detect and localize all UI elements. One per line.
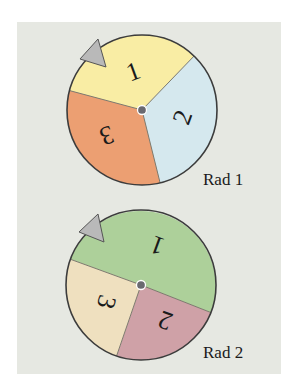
spinner-1: 1 2 3 [67, 35, 217, 185]
spinner-1-center-pin [138, 106, 147, 115]
spinner-2-label: Rad 2 [203, 343, 243, 363]
spinner-2-center-pin [137, 281, 146, 290]
spinners-figure: 1 2 3 1 2 3 [0, 0, 292, 380]
spinner-2: 1 2 3 [66, 210, 216, 360]
spinner-1-label: Rad 1 [203, 170, 243, 190]
